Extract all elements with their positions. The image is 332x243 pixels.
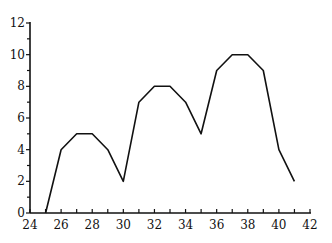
data-line (46, 55, 295, 213)
x-tick-label: 24 (22, 218, 38, 232)
x-tick-label: 40 (271, 218, 286, 232)
y-tick-label: 12 (10, 16, 25, 30)
y-tick-label: 8 (17, 79, 25, 93)
x-tick-label: 30 (116, 218, 131, 232)
x-tick-label: 38 (240, 218, 255, 232)
tick-labels: 24262830323436384042024681012 (10, 16, 318, 232)
y-tick-label: 4 (17, 143, 25, 157)
x-tick-label: 42 (302, 218, 317, 232)
x-tick-label: 26 (53, 218, 68, 232)
axis-ticks (26, 23, 310, 213)
y-tick-label: 2 (17, 174, 25, 188)
x-tick-label: 32 (147, 218, 162, 232)
y-tick-label: 10 (10, 48, 25, 62)
axes (30, 22, 311, 213)
x-tick-label: 34 (178, 218, 194, 232)
x-tick-label: 36 (209, 218, 224, 232)
y-tick-label: 0 (17, 206, 25, 220)
line-chart: 24262830323436384042024681012 (0, 0, 332, 243)
x-tick-label: 28 (85, 218, 100, 232)
y-tick-label: 6 (17, 111, 25, 125)
